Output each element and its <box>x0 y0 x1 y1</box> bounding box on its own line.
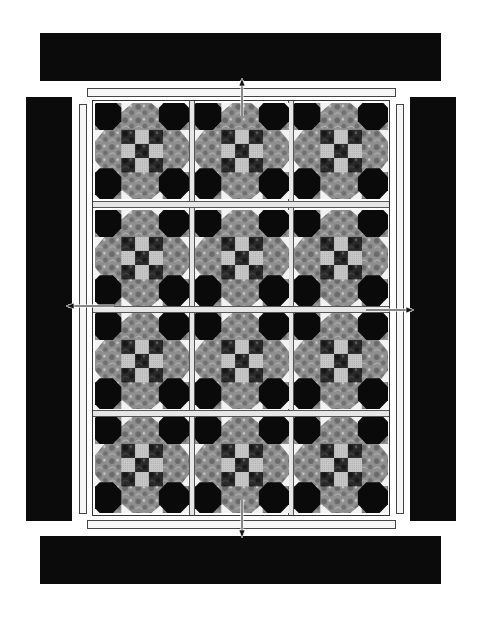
quilt-block <box>195 313 289 409</box>
horizontal-sashing <box>93 410 389 417</box>
horizontal-sashing <box>93 306 389 313</box>
arrow-right-icon <box>366 304 416 316</box>
bottom-border <box>40 536 441 584</box>
quilt-block <box>195 210 289 306</box>
quilt-block <box>95 103 189 199</box>
quilt-block <box>95 417 189 513</box>
quilt-block <box>294 313 388 409</box>
quilt-block <box>294 210 388 306</box>
quilt-block <box>195 103 289 199</box>
horizontal-sashing <box>93 201 389 208</box>
quilt-center <box>92 100 390 516</box>
top-border <box>40 33 441 81</box>
arrow-left-icon <box>64 300 114 312</box>
arrow-up-icon <box>236 76 248 116</box>
right-border <box>410 97 456 521</box>
quilt-block <box>95 313 189 409</box>
quilt-block <box>294 103 388 199</box>
quilt-block <box>195 417 289 513</box>
quilt-block <box>294 417 388 513</box>
quilt-block <box>95 210 189 306</box>
arrow-down-icon <box>236 500 248 540</box>
